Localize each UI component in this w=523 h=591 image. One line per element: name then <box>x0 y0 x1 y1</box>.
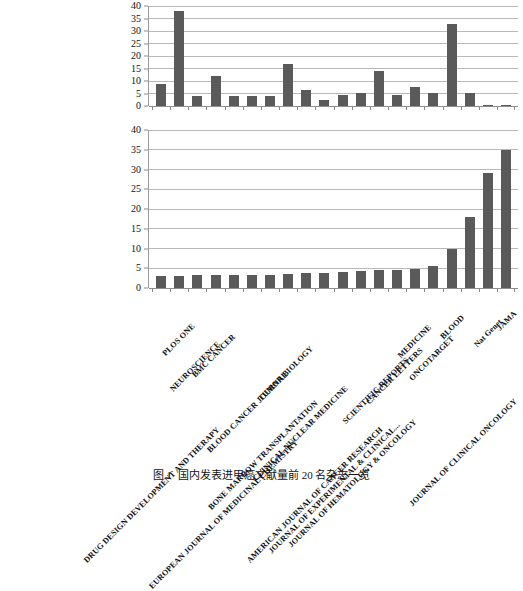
bar-cell <box>170 6 188 106</box>
y-tick-label: 25 <box>131 184 141 194</box>
y-tick-label: 30 <box>131 26 141 36</box>
bar-cell <box>188 130 206 288</box>
bar-cell <box>443 6 461 106</box>
bar-series-top <box>149 6 518 106</box>
y-tick-label: 20 <box>131 51 141 61</box>
bar <box>338 272 348 288</box>
x-tick-mark <box>170 106 188 110</box>
y-axis-labels-top: 0510152025303540 <box>118 6 144 106</box>
bar <box>374 71 384 106</box>
bar <box>211 76 221 106</box>
x-category-label: JOURNAL OF CLINICAL ONCOLOGY <box>408 397 519 508</box>
x-category-label: PLOS ONE <box>161 322 197 358</box>
bar-cell <box>243 6 261 106</box>
x-category-label: JOURNAL OF HEMATOLOGY & ONCOLOGY <box>287 417 419 549</box>
y-tick-label: 15 <box>131 64 141 74</box>
bar <box>283 64 293 107</box>
y-tick-label: 10 <box>131 244 141 254</box>
x-axis-category-labels: DRUG DESIGN DEVELOPMENT AND THERAPYPLOS … <box>118 292 518 462</box>
bar <box>447 249 457 289</box>
bar <box>174 276 184 288</box>
bar-cell <box>243 130 261 288</box>
bar <box>192 275 202 288</box>
x-tick-mark <box>243 106 261 110</box>
bar <box>465 93 475 106</box>
bar <box>410 269 420 288</box>
bar-cell <box>334 6 352 106</box>
bar <box>410 87 420 106</box>
bar <box>211 275 221 288</box>
x-category-label: BMC CANCER <box>190 332 237 379</box>
x-tick-mark <box>225 106 243 110</box>
bar-cell <box>406 130 424 288</box>
bar <box>374 270 384 288</box>
y-tick-label: 40 <box>131 125 141 135</box>
bar-cell <box>497 130 515 288</box>
bar-cell <box>225 130 243 288</box>
x-tick-mark <box>352 106 370 110</box>
x-tick-mark <box>188 106 206 110</box>
bar-cell <box>388 130 406 288</box>
y-tick-label: 10 <box>131 76 141 86</box>
bar-cell <box>479 6 497 106</box>
bar-cell <box>461 6 479 106</box>
bar-cell <box>443 130 461 288</box>
bar <box>465 217 475 288</box>
bar <box>174 11 184 106</box>
caption-number: 图 1 <box>153 469 172 481</box>
bar <box>229 275 239 288</box>
bar-cell <box>225 6 243 106</box>
bar-cell <box>406 6 424 106</box>
bar <box>156 84 166 107</box>
x-tick-mark <box>152 106 170 110</box>
x-axis-ticks-top <box>149 106 518 110</box>
y-tick-label: 20 <box>131 204 141 214</box>
bar-cell <box>206 130 224 288</box>
x-category-label: JAMA <box>495 309 518 332</box>
bar <box>483 173 493 288</box>
bar <box>356 271 366 288</box>
bar-cell <box>497 6 515 106</box>
bar-cell <box>261 6 279 106</box>
x-tick-mark <box>334 106 352 110</box>
x-tick-mark <box>297 106 315 110</box>
bar-chart-top: 0510152025303540 <box>118 6 518 106</box>
bar-cell <box>370 130 388 288</box>
y-axis-labels-bottom: 0510152025303540 <box>118 130 144 288</box>
bar-cell <box>152 130 170 288</box>
bar-cell <box>297 130 315 288</box>
bar-cell <box>424 130 442 288</box>
bar-cell <box>188 6 206 106</box>
y-tick-label: 30 <box>131 165 141 175</box>
bar <box>428 93 438 106</box>
bar <box>392 270 402 288</box>
y-tick-label: 15 <box>131 224 141 234</box>
bar <box>301 90 311 106</box>
bar-cell <box>370 6 388 106</box>
bar <box>247 96 257 106</box>
bar <box>428 266 438 288</box>
x-tick-mark <box>315 106 333 110</box>
bar <box>501 150 511 288</box>
bar <box>247 275 257 288</box>
bar <box>356 93 366 106</box>
bar <box>319 273 329 288</box>
bar <box>229 96 239 106</box>
bar <box>301 273 311 288</box>
bar-cell <box>279 6 297 106</box>
bar <box>447 24 457 107</box>
plot-area-top <box>148 6 518 106</box>
bar-cell <box>315 6 333 106</box>
x-tick-mark <box>406 106 424 110</box>
y-tick-label: 35 <box>131 145 141 155</box>
bar-cell <box>297 6 315 106</box>
bar <box>156 276 166 288</box>
bar-chart-bottom: 0510152025303540 <box>118 130 518 288</box>
bar-cell <box>315 130 333 288</box>
bar-cell <box>206 6 224 106</box>
y-tick-label: 5 <box>136 89 141 99</box>
x-tick-mark <box>443 106 461 110</box>
caption-text: 国内发表进甲癌文献量前 20 名杂志一览 <box>178 469 371 481</box>
x-tick-mark <box>388 106 406 110</box>
